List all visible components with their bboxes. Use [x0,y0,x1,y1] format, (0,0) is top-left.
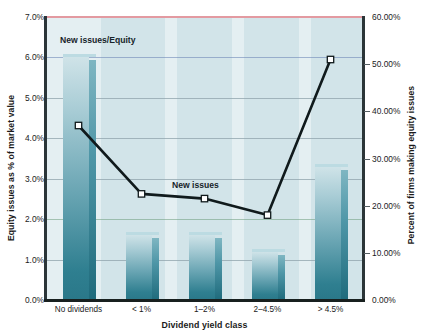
y-axis-left-tick-label: 7.0% [4,12,44,22]
y-axis-right-tick-label: 0.00% [372,295,396,305]
x-axis-title: Dividend yield class [47,320,362,330]
background-band [299,17,311,300]
bar-side-face [341,170,348,300]
y-axis-right-tick-label: 30.00% [372,154,400,164]
axis-spine-left [44,16,47,301]
y-axis-right-tick-label: 60.00% [372,12,400,22]
axis-spine-top [46,16,364,18]
y-axis-right-tick-mark [364,64,370,65]
y-axis-left-tick-label: 3.0% [4,174,44,184]
y-axis-right-tick-label: 20.00% [372,201,400,211]
y-axis-left-tick-label: 0.0% [4,295,44,305]
bar-side-face [278,255,285,301]
y-axis-left-tick-label: 1.0% [4,255,44,265]
bar-top-face [189,232,222,235]
plot-area [47,17,362,300]
bar-top-face [252,249,285,252]
y-axis-left-tick-label: 2.0% [4,214,44,224]
background-band [165,17,177,300]
y-axis-left-tick-label: 4.0% [4,133,44,143]
bar-top-face [315,164,348,167]
bar-top-face [63,54,96,57]
y-axis-right-title: Percent of firms making equity issues [406,67,416,263]
bar-side-face [215,238,222,300]
gridline [47,57,362,58]
bar [252,252,278,301]
chart-figure: Equity issues as % of market value Perce… [0,0,425,334]
x-axis-tick-label: > 4.5% [286,305,376,314]
bar-side-face [89,60,96,300]
bar-top-face [126,232,159,235]
bar [126,235,152,300]
y-axis-right-tick-mark [364,253,370,254]
y-axis-left-tick-label: 6.0% [4,52,44,62]
y-axis-right-tick-mark [364,206,370,207]
y-axis-left-tick-label: 5.0% [4,93,44,103]
y-axis-right-tick-mark [364,159,370,160]
y-axis-right-tick-label: 10.00% [372,248,400,258]
bar [189,235,215,300]
annotation-new-issues: New issues [172,180,219,190]
bar [63,57,89,300]
axis-spine-bottom [44,299,365,302]
background-band [232,17,244,300]
bar [315,167,341,300]
annotation-new-issues-equity: New issues/Equity [60,35,135,45]
y-axis-right-tick-mark [364,111,370,112]
y-axis-right-tick-label: 50.00% [372,59,400,69]
bar-side-face [152,238,159,300]
y-axis-right-tick-label: 40.00% [372,106,400,116]
